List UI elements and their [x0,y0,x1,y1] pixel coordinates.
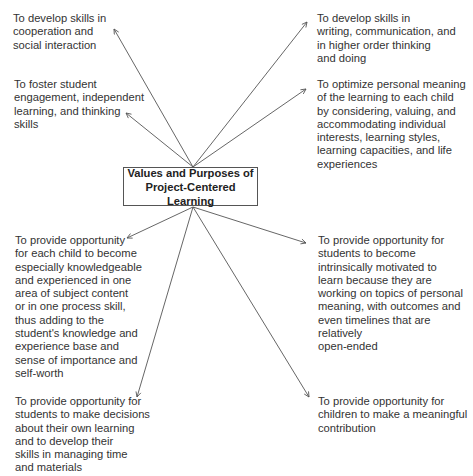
node-personal-meaning: To optimize personal meaning of the lear… [317,78,466,171]
arrow-to-motivated [193,207,306,243]
arrow-to-writing [193,22,307,167]
arrow-to-contribution [193,207,309,397]
node-writing: To develop skills in writing, communicat… [317,12,456,65]
central-concept-box: Values and Purposes of Project-Centered … [123,167,258,206]
node-cooperation: To develop skills in cooperation and soc… [13,12,106,52]
node-decisions: To provide opportunity for students to m… [15,395,150,475]
arrow-to-decisions [137,207,193,397]
node-knowledgeable: To provide opportunity for each child to… [15,234,142,380]
node-engagement: To foster student engagement, independen… [14,78,144,131]
central-concept-label: Values and Purposes of Project-Centered … [124,166,257,208]
arrow-to-personal-meaning [193,89,306,167]
node-motivated: To provide opportunity for students to b… [318,234,473,354]
node-contribution: To provide opportunity for children to m… [318,395,467,435]
